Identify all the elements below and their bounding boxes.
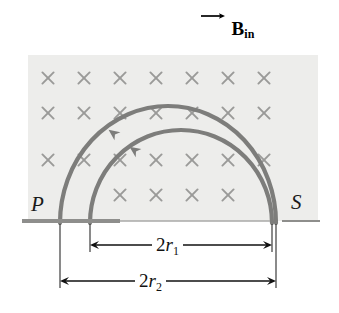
point-p-label: P bbox=[31, 192, 44, 217]
figure-canvas bbox=[0, 0, 339, 313]
point-s-label: S bbox=[291, 190, 302, 215]
r2-subscript: 2 bbox=[156, 280, 162, 294]
magnetic-field-subscript: in bbox=[244, 27, 254, 41]
magnetic-field-label: Bin bbox=[213, 12, 273, 40]
r1-prefix: 2 bbox=[156, 234, 166, 255]
diameter-r1-label: 2r1 bbox=[152, 234, 183, 259]
physics-figure-semicircular-paths: Bin P S 2r1 2r2 bbox=[0, 0, 339, 313]
diameter-r2-label: 2r2 bbox=[135, 270, 166, 295]
vector-arrow-icon bbox=[213, 12, 273, 19]
r1-subscript: 1 bbox=[173, 244, 179, 258]
diameter-r2-dimension bbox=[60, 277, 276, 285]
r2-prefix: 2 bbox=[139, 270, 149, 291]
r1-symbol: r bbox=[166, 234, 173, 255]
magnetic-field-symbol: B bbox=[231, 18, 244, 39]
r2-symbol: r bbox=[149, 270, 156, 291]
